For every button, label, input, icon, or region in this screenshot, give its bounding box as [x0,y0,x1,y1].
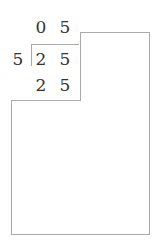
answer-box-top [80,32,150,33]
dividend-digit-2: 5 [58,49,72,69]
divisor: 5 [11,49,25,69]
answer-box-left [11,100,12,235]
division-bracket [31,44,32,66]
answer-box-right [149,32,150,235]
dividend-digit-1: 2 [34,49,48,69]
quotient-digit-2: 5 [58,17,72,37]
answer-box-step-vertical [80,32,81,101]
answer-box-step-horizontal [11,100,81,101]
product-digit-1: 2 [34,75,48,95]
product-digit-2: 5 [58,75,72,95]
division-bar [31,44,79,45]
answer-box-bottom [11,234,150,235]
quotient-digit-1: 0 [34,17,48,37]
